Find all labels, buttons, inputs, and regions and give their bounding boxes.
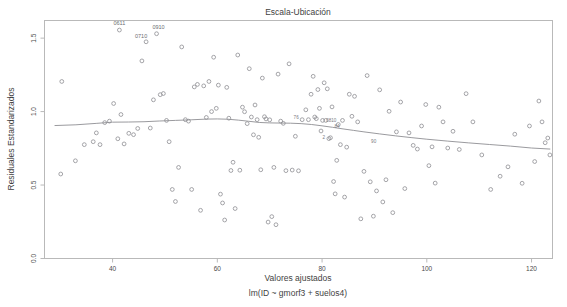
inline-point-label: 76 bbox=[294, 115, 300, 120]
x-tick-label: 40 bbox=[109, 265, 117, 272]
scale-location-plot: Escala-Ubicación 406080100120 0.00.51.01… bbox=[0, 0, 567, 307]
plot-background bbox=[0, 0, 567, 307]
model-formula-subtitle: lm(ID ~ gmorf3 + suelos4) bbox=[249, 288, 347, 298]
x-tick-label: 100 bbox=[421, 265, 432, 272]
y-tick-label: 0.0 bbox=[30, 254, 37, 263]
outlier-label: 0910 bbox=[152, 24, 164, 30]
inline-point-label: 90 bbox=[371, 139, 377, 144]
x-tick-label: 80 bbox=[318, 265, 326, 272]
inline-point-label: 84 bbox=[334, 124, 340, 129]
x-tick-label: 60 bbox=[214, 265, 222, 272]
y-axis-title: Residuales Estandarizados bbox=[6, 87, 16, 190]
x-tick-label: 120 bbox=[526, 265, 537, 272]
x-axis-title: Valores ajustados bbox=[265, 273, 332, 283]
plot-canvas: Escala-Ubicación 406080100120 0.00.51.01… bbox=[0, 0, 567, 307]
chart-title: Escala-Ubicación bbox=[265, 7, 331, 17]
y-tick-label: 1.0 bbox=[30, 107, 37, 116]
outlier-label: 0710 bbox=[135, 33, 147, 39]
y-tick-label: 1.5 bbox=[30, 33, 37, 42]
outlier-label: 0611 bbox=[113, 20, 125, 26]
inline-point-label: 2 bbox=[323, 135, 326, 140]
inline-point-label: 0810 bbox=[326, 118, 337, 123]
y-tick-label: 0.5 bbox=[30, 180, 37, 189]
